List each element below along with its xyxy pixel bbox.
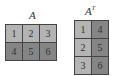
matrix-a-label-text: A <box>29 9 36 21</box>
matrix-a-cell: 6 <box>40 43 56 60</box>
matrix-at-cell: 2 <box>75 39 91 56</box>
matrix-a-cell: 3 <box>40 25 56 42</box>
matrix-at-cell: 4 <box>92 21 108 38</box>
matrix-at-label-base: A <box>85 5 92 17</box>
matrix-a-label: A <box>29 10 36 21</box>
transpose-superscript: T <box>92 5 95 11</box>
matrix-a-cell: 2 <box>23 25 39 42</box>
matrix-a: 1 2 3 4 5 6 <box>5 24 57 61</box>
matrix-at-cell: 5 <box>92 39 108 56</box>
matrix-at-label: AT <box>85 5 95 17</box>
matrix-at-cell: 1 <box>75 21 91 38</box>
matrix-a-cell: 5 <box>23 43 39 60</box>
matrix-a-transpose: 1 4 2 5 3 6 <box>74 20 109 75</box>
matrix-at-cell: 3 <box>75 57 91 74</box>
matrix-at-cell: 6 <box>92 57 108 74</box>
matrix-a-cell: 4 <box>6 43 22 60</box>
matrix-a-cell: 1 <box>6 25 22 42</box>
